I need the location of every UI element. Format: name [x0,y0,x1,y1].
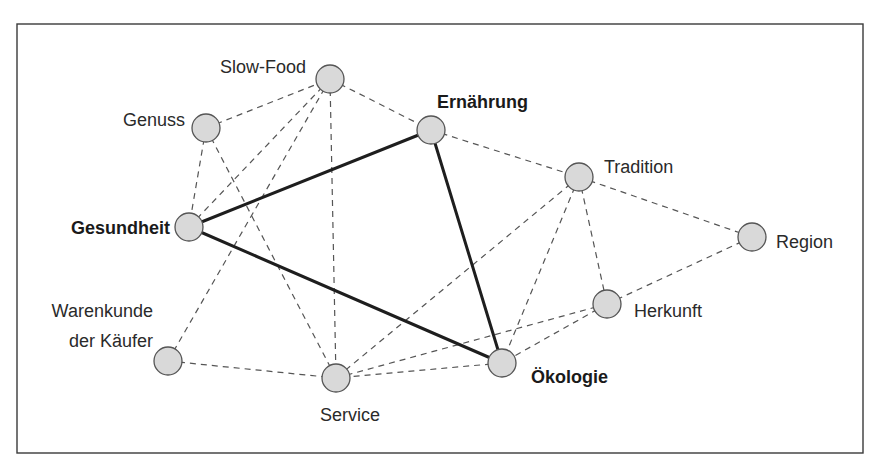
node-label-line: Gesundheit [71,218,170,238]
node-label-genuss: Genuss [123,110,185,130]
node-genuss [192,114,220,142]
node-tradition [565,163,593,191]
node-label-line: Ernährung [437,92,528,112]
diagram-frame [17,24,863,453]
node-label-line: der Käufer [69,331,153,351]
node-herkunft [593,290,621,318]
network-diagram: Slow-FoodGenussErnährungTraditionGesundh… [0,0,878,473]
node-label-line: Warenkunde [52,301,153,321]
node-label-gesundheit: Gesundheit [71,218,170,238]
node-label-line: Ökologie [531,367,608,387]
node-ernaehrung [417,116,445,144]
node-label-line: Herkunft [634,301,702,321]
node-label-line: Slow-Food [220,57,306,77]
node-label-herkunft: Herkunft [634,301,702,321]
node-label-tradition: Tradition [604,157,673,177]
node-label-oekologie: Ökologie [531,367,608,387]
node-label-service: Service [320,405,380,425]
node-slowfood [316,65,344,93]
node-label-line: Tradition [604,157,673,177]
node-label-region: Region [776,232,833,252]
node-label-line: Genuss [123,110,185,130]
node-label-slowfood: Slow-Food [220,57,306,77]
node-gesundheit [175,213,203,241]
node-warenkunde [154,347,182,375]
node-oekologie [488,349,516,377]
node-service [322,364,350,392]
node-label-line: Region [776,232,833,252]
node-label-ernaehrung: Ernährung [437,92,528,112]
node-region [738,223,766,251]
node-label-line: Service [320,405,380,425]
